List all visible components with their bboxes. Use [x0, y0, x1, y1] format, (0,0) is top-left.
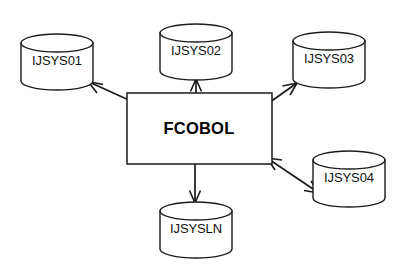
node-label-ijsys03: IJSYS03 [304, 51, 354, 66]
node-label-ijsys04: IJSYS04 [324, 170, 374, 185]
node-ijsys01[interactable]: IJSYS01 [21, 34, 93, 90]
node-ijsysln[interactable]: IJSYSLN [160, 202, 232, 258]
node-label-ijsysln: IJSYSLN [170, 221, 222, 236]
process-label: FCOBOL [164, 119, 235, 137]
process-node-fcobol[interactable]: FCOBOL [127, 93, 272, 164]
node-ijsys04[interactable]: IJSYS04 [313, 151, 385, 207]
node-label-ijsys02: IJSYS02 [171, 43, 221, 58]
node-ijsys02[interactable]: IJSYS02 [160, 24, 232, 80]
edge-fcobol-ijsys04 [267, 158, 319, 193]
node-label-ijsys01: IJSYS01 [32, 53, 82, 68]
diagram-canvas: FCOBOL IJSYS01 IJSYS02 IJSYS03 IJSYS04 [0, 0, 401, 274]
node-ijsys03[interactable]: IJSYS03 [293, 32, 365, 88]
diagram-svg: FCOBOL IJSYS01 IJSYS02 IJSYS03 IJSYS04 [0, 0, 401, 274]
